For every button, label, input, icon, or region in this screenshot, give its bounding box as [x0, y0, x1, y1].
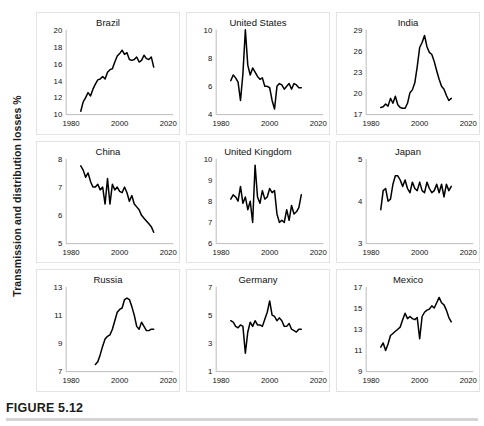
svg-text:2000: 2000 — [411, 248, 428, 257]
svg-text:26: 26 — [354, 47, 363, 56]
svg-text:29: 29 — [354, 26, 363, 35]
panel-brazil: Brazil 101214161820198020002020 — [36, 12, 180, 135]
svg-text:20: 20 — [54, 26, 63, 35]
y-axis-label: Transmission and distribution losses % — [0, 0, 34, 392]
svg-text:2000: 2000 — [411, 119, 428, 128]
svg-text:2000: 2000 — [111, 376, 128, 385]
svg-text:23: 23 — [354, 68, 363, 77]
svg-text:3: 3 — [358, 239, 362, 248]
svg-text:9: 9 — [208, 176, 212, 185]
panel-russia: Russia 791113198020002020 — [36, 269, 180, 392]
svg-text:2020: 2020 — [310, 376, 327, 385]
svg-text:3: 3 — [208, 340, 212, 349]
panel-plot: 101214161820198020002020 — [37, 26, 179, 134]
panel-germany: Germany 1357198020002020 — [186, 269, 330, 392]
svg-text:17: 17 — [354, 111, 363, 120]
panel-united-kingdom: United Kingdom 678910198020002020 — [186, 141, 330, 264]
svg-text:20: 20 — [354, 89, 363, 98]
svg-text:1980: 1980 — [212, 119, 229, 128]
svg-text:1980: 1980 — [362, 248, 379, 257]
svg-text:2000: 2000 — [111, 119, 128, 128]
svg-text:2020: 2020 — [460, 119, 477, 128]
svg-text:1: 1 — [208, 368, 212, 377]
svg-text:7: 7 — [58, 368, 62, 377]
svg-text:1980: 1980 — [62, 248, 79, 257]
svg-text:2020: 2020 — [160, 248, 177, 257]
svg-text:4: 4 — [358, 197, 363, 206]
panel-united-states: United States 46810198020002020 — [186, 12, 330, 135]
svg-text:1980: 1980 — [362, 119, 379, 128]
svg-text:10: 10 — [204, 26, 213, 35]
svg-text:8: 8 — [208, 197, 212, 206]
svg-text:10: 10 — [54, 111, 63, 120]
figure-caption-block: FIGURE 5.12 — [6, 398, 478, 422]
svg-text:7: 7 — [208, 283, 212, 292]
svg-text:2000: 2000 — [261, 119, 278, 128]
svg-text:7: 7 — [58, 183, 62, 192]
panel-plot: 345198020002020 — [337, 155, 479, 263]
panel-plot: 5678198020002020 — [37, 155, 179, 263]
svg-text:13: 13 — [354, 325, 363, 334]
svg-text:8: 8 — [208, 54, 212, 63]
svg-text:8: 8 — [58, 155, 62, 164]
svg-text:5: 5 — [358, 155, 362, 164]
panel-plot: 46810198020002020 — [187, 26, 329, 134]
svg-text:11: 11 — [354, 347, 362, 356]
svg-text:1980: 1980 — [212, 248, 229, 257]
svg-text:15: 15 — [354, 304, 363, 313]
svg-text:9: 9 — [358, 368, 362, 377]
panel-japan: Japan 345198020002020 — [336, 141, 480, 264]
svg-text:14: 14 — [54, 77, 63, 86]
svg-text:7: 7 — [208, 218, 212, 227]
svg-text:2020: 2020 — [160, 376, 177, 385]
svg-text:2000: 2000 — [111, 248, 128, 257]
figure-container: Transmission and distribution losses % B… — [0, 0, 484, 426]
svg-text:2020: 2020 — [160, 119, 177, 128]
svg-text:1980: 1980 — [212, 376, 229, 385]
svg-text:2020: 2020 — [310, 248, 327, 257]
svg-text:6: 6 — [208, 239, 212, 248]
panel-plot: 911131517198020002020 — [337, 283, 479, 391]
panel-india: India 1720232629198020002020 — [336, 12, 480, 135]
svg-text:18: 18 — [54, 43, 63, 52]
y-axis-label-text: Transmission and distribution losses % — [11, 95, 23, 297]
svg-text:5: 5 — [58, 239, 62, 248]
svg-text:9: 9 — [58, 340, 62, 349]
svg-text:1980: 1980 — [62, 376, 79, 385]
svg-text:13: 13 — [54, 283, 63, 292]
panel-china: China 5678198020002020 — [36, 141, 180, 264]
figure-caption: FIGURE 5.12 — [6, 401, 83, 415]
panel-plot: 1357198020002020 — [187, 283, 329, 391]
caption-divider — [6, 418, 478, 421]
panel-plot: 678910198020002020 — [187, 155, 329, 263]
svg-text:5: 5 — [208, 311, 212, 320]
panel-plot: 791113198020002020 — [37, 283, 179, 391]
svg-text:1980: 1980 — [62, 119, 79, 128]
svg-text:11: 11 — [54, 311, 62, 320]
svg-text:12: 12 — [54, 94, 63, 103]
svg-text:2000: 2000 — [261, 248, 278, 257]
svg-text:10: 10 — [204, 155, 213, 164]
panel-plot: 1720232629198020002020 — [337, 26, 479, 134]
panel-grid: Brazil 101214161820198020002020 United S… — [36, 12, 480, 392]
svg-text:2020: 2020 — [460, 248, 477, 257]
panel-mexico: Mexico 911131517198020002020 — [336, 269, 480, 392]
svg-text:2000: 2000 — [261, 376, 278, 385]
svg-text:6: 6 — [208, 82, 212, 91]
svg-text:4: 4 — [208, 111, 213, 120]
svg-text:2000: 2000 — [411, 376, 428, 385]
svg-text:2020: 2020 — [310, 119, 327, 128]
svg-text:17: 17 — [354, 283, 363, 292]
svg-text:16: 16 — [54, 60, 63, 69]
svg-text:1980: 1980 — [362, 376, 379, 385]
svg-text:2020: 2020 — [460, 376, 477, 385]
svg-text:6: 6 — [58, 211, 62, 220]
